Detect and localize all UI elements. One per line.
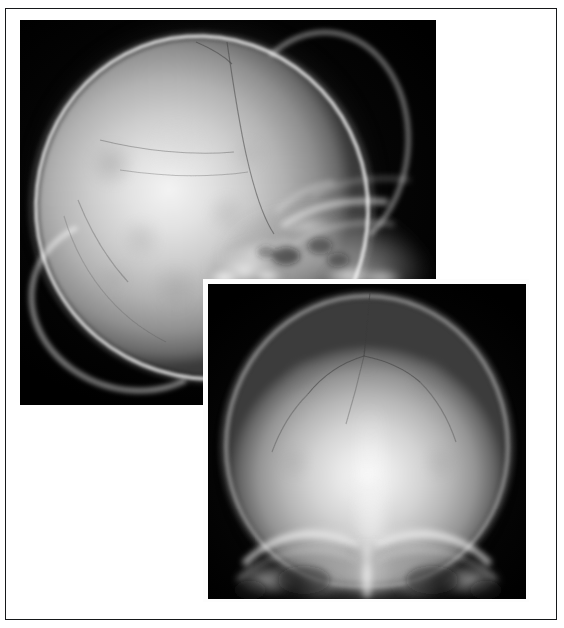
figure-caption xyxy=(20,604,540,616)
figure-root xyxy=(0,0,564,628)
figure-border-frame xyxy=(5,8,557,620)
